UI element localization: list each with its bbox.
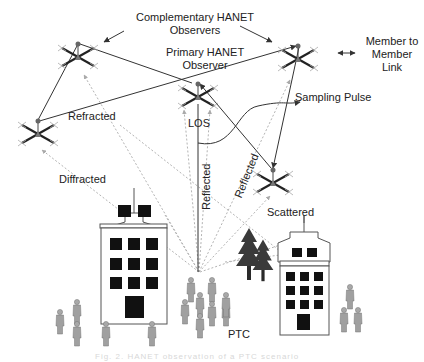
diffracted-label: Diffracted [59, 173, 106, 186]
primary-observer-label: Primary HANET Observer [155, 46, 255, 72]
drone-top-right [278, 44, 318, 72]
sampling-pulse-label: Sampling Pulse [295, 91, 371, 104]
ptc-label: PTC [228, 328, 250, 341]
complementary-observers-label: Complementary HANET Observers [120, 11, 270, 37]
building-left [100, 188, 167, 324]
figure-caption: Fig. 2. HANET observation of a PTC scena… [95, 352, 299, 361]
building-right [278, 215, 330, 335]
drone-top-left [58, 42, 98, 70]
legend-line1: Member to [360, 35, 424, 48]
legend-label: Member to Member Link [360, 35, 424, 74]
tree-2 [253, 240, 274, 282]
drone-lower-right [253, 168, 293, 196]
refracted-label: Refracted [68, 110, 116, 123]
legend-line3: Link [360, 61, 424, 74]
scattered-label: Scattered [267, 206, 314, 219]
drone-left [18, 119, 58, 147]
complementary-label-line1: Complementary HANET [120, 11, 270, 24]
hanet-diagram: Complementary HANET Observers Primary HA… [0, 0, 424, 362]
los-label: LOS [188, 117, 210, 130]
legend-line2: Member [360, 48, 424, 61]
primary-label-line1: Primary HANET [155, 46, 255, 59]
reflected-label-1: Reflected [200, 164, 213, 210]
primary-label-line2: Observer [155, 59, 255, 72]
complementary-label-line2: Observers [120, 24, 270, 37]
